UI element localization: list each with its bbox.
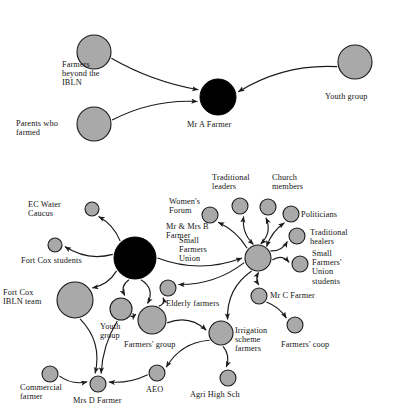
node-label-irrigation-scheme-farmers: Irrigation scheme farmers [235,326,267,354]
node-fort-cox-students[interactable] [48,238,62,252]
figure-canvas: Farmers beyond the IBLNParents who farme… [0,0,397,411]
node-label-fort-cox-students: Fort Cox students [21,256,82,265]
edge-small-farmers-union-to-irrigation-scheme-farmers [228,271,252,320]
node-label-aeo: AEO [146,385,163,394]
node-traditional-leaders[interactable] [232,198,248,214]
node-aeo[interactable] [149,365,165,381]
node-label-elderly-farmers: Elderly farmers [166,299,219,308]
node-mr-a-farmer[interactable] [200,79,236,115]
node-parents-who-farmed[interactable] [77,107,111,141]
edge-mr-mrs-b-farmer-to-farmers-group [141,280,150,304]
node-label-traditional-healers: Traditional healers [310,228,348,246]
node-church-members[interactable] [260,199,276,215]
node-politicians[interactable] [283,206,299,222]
edge-small-farmers-union-to-traditional-leaders [243,216,253,244]
edge-small-farmers-union-to-church-members [261,218,268,244]
edge-parents-who-farmed-to-mr-a-farmer [112,101,197,120]
edge-irrigation-scheme-farmers-to-agri-high-sch [223,346,228,367]
node-label-small-farmers-union: Small Farmers Union [179,236,207,264]
node-irrigation-scheme-farmers[interactable] [209,321,233,345]
node-farmers-coop[interactable] [287,317,303,333]
edge-fort-cox-ibln-team-to-mrs-d-farmer [80,319,97,374]
edge-small-farmers-union-to-traditional-healers [271,241,288,251]
node-mr-mrs-b-farmer[interactable] [114,237,156,279]
node-label-commercial-farmer: Commercial farmer [20,383,62,401]
node-ec-water-caucus[interactable] [85,202,99,216]
edge-mr-mrs-b-farmer-to-youth-group-lower [123,280,129,296]
node-fort-cox-ibln-team[interactable] [57,282,93,318]
node-label-agri-high-sch: Agri High Sch [190,390,240,399]
edge-small-farmers-union-to-womens-forum [218,222,247,248]
edge-small-farmers-union-to-sfu-students [272,257,289,262]
node-label-farmers-group: Farmers' group [124,340,176,349]
node-mrs-d-farmer[interactable] [90,376,106,392]
node-label-farmers-beyond-ibln: Farmers beyond the IBLN [62,60,100,88]
node-label-mr-a-farmer: Mr A Farmer [187,120,231,129]
node-label-church-members: Church members [272,173,303,191]
edge-small-farmers-union-to-mr-c-farmer [257,273,259,286]
node-label-traditional-leaders: Traditional leaders [212,173,250,191]
node-traditional-healers[interactable] [289,228,305,244]
edge-small-farmers-union-to-politicians [267,223,285,247]
node-small-farmers-union[interactable] [245,245,271,271]
node-label-womens-forum: Women's Forum [169,197,200,215]
edge-mr-c-farmer-to-farmers-coop [266,302,286,318]
node-agri-high-sch[interactable] [220,370,236,386]
node-commercial-farmer[interactable] [42,366,58,382]
node-label-mrs-d-farmer: Mrs D Farmer [73,396,122,405]
edge-farmers-group-to-elderly-farmers [159,298,164,306]
edge-aeo-to-mrs-d-farmer [109,375,148,383]
edge-youth-group-lower-to-farmers-group [133,313,136,315]
node-label-mr-c-farmer: Mr C Farmer [270,291,315,300]
edge-mr-mrs-b-farmer-to-ec-water-caucus [99,217,121,242]
node-elderly-farmers[interactable] [160,280,176,296]
node-sfu-students[interactable] [292,256,308,272]
node-womens-forum[interactable] [202,207,218,223]
node-label-farmers-coop: Farmers' coop [281,340,329,349]
edge-commercial-farmer-to-mrs-d-farmer [59,376,87,383]
node-mr-c-farmer[interactable] [251,288,267,304]
node-label-youth-group-upper: Youth group [325,92,367,101]
node-label-ec-water-caucus: EC Water Caucus [28,200,61,218]
edge-mr-mrs-b-farmer-to-fort-cox-ibln-team [92,271,116,288]
node-label-parents-who-farmed: Parents who farmed [16,119,58,137]
node-farmers-group[interactable] [138,306,166,334]
edge-youth-group-upper-to-mr-a-farmer [238,66,337,91]
edge-farmers-group-to-irrigation-scheme-farmers [167,320,206,330]
edge-farmers-beyond-ibln-to-mr-a-farmer [111,58,198,90]
node-label-youth-group-lower: Youth group [100,322,120,340]
node-label-politicians: Politicians [301,210,337,219]
node-label-sfu-students: Small Farmers' Union students [312,249,341,286]
node-label-fort-cox-ibln-team: Fort Cox IBLN team [3,288,41,306]
node-youth-group-upper[interactable] [338,45,372,79]
node-youth-group-lower[interactable] [110,298,132,320]
